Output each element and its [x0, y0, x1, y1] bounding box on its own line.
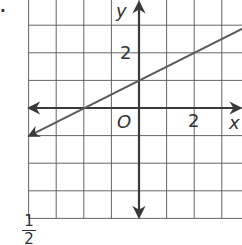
fraction-denominator: 2 — [24, 230, 34, 245]
grid-lines — [29, 0, 242, 218]
plotted-line — [30, 29, 242, 136]
function-line — [30, 29, 242, 136]
y-axis-label: y — [116, 2, 127, 20]
fraction-one-half: 1 2 — [22, 214, 36, 245]
x-axis-label: x — [229, 114, 240, 132]
y-tick-label-2: 2 — [120, 44, 131, 62]
origin-label: O — [117, 113, 131, 131]
fraction-numerator: 1 — [24, 212, 34, 230]
axes — [30, 3, 240, 216]
x-tick-label-2: 2 — [188, 112, 199, 130]
